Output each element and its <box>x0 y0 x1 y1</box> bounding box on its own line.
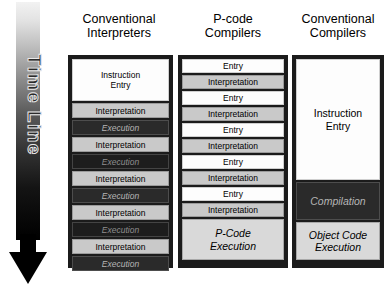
stage-block: Execution <box>72 256 169 271</box>
stage-block: Entry <box>182 59 284 73</box>
stage-block: Interpretation <box>182 203 284 217</box>
stage-block: Interpretation <box>182 139 284 153</box>
stage-block: Execution <box>72 222 169 237</box>
stage-block: Entry <box>182 155 284 169</box>
stage-block: Compilation <box>296 182 380 220</box>
stage-block: Instruction Entry <box>72 59 169 101</box>
stage-block: Object Code Execution <box>296 222 380 260</box>
stage-block: Interpretation <box>182 75 284 89</box>
pipeline-comparison-diagram: Time Line Conventional Interpreters Inst… <box>0 0 390 287</box>
time-line-arrow: Time Line <box>9 2 47 285</box>
time-line-shaft <box>16 2 40 240</box>
column-conventional-compilers: Instruction EntryCompilationObject Code … <box>292 55 384 268</box>
stage-block: Entry <box>182 187 284 201</box>
stage-block: Execution <box>72 120 169 135</box>
column-heading-p-code-compilers: P-code Compilers <box>180 12 286 40</box>
stage-block: Interpretation <box>182 107 284 121</box>
column-heading-conventional-compilers: Conventional Compilers <box>288 12 388 40</box>
stage-block: Execution <box>72 188 169 203</box>
stage-block: Entry <box>182 91 284 105</box>
stage-block: Interpretation <box>72 137 169 152</box>
stage-block: Entry <box>182 123 284 137</box>
stage-block: Instruction Entry <box>296 59 380 180</box>
stage-block: Interpretation <box>72 103 169 118</box>
column-p-code-compilers: EntryInterpretationEntryInterpretationEn… <box>178 55 288 268</box>
stage-block: Interpretation <box>72 205 169 220</box>
stage-block: Interpretation <box>72 239 169 254</box>
time-line-arrowhead-icon <box>9 234 47 284</box>
stage-block: Interpretation <box>182 171 284 185</box>
column-heading-conventional-interpreters: Conventional Interpreters <box>60 12 178 40</box>
column-conventional-interpreters: Instruction EntryInterpretationExecution… <box>68 55 173 268</box>
stage-block: Interpretation <box>72 171 169 186</box>
stage-block: P-Code Execution <box>182 219 284 260</box>
stage-block: Execution <box>72 154 169 169</box>
